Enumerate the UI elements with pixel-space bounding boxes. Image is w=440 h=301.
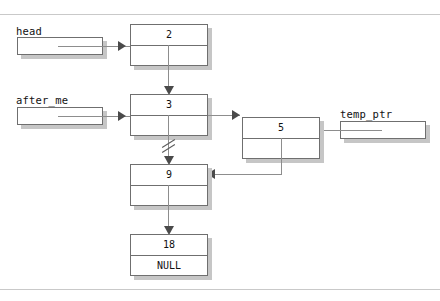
node-18-value: 18 xyxy=(131,235,207,256)
node-2[interactable]: 2 xyxy=(130,24,208,66)
node-3-value: 3 xyxy=(131,95,207,116)
node-3-next xyxy=(131,116,207,135)
figure-top-rule xyxy=(0,14,440,15)
figure-bottom-rule xyxy=(0,289,440,290)
node-2-value: 2 xyxy=(131,25,207,46)
pointer-label-head: head xyxy=(16,25,42,37)
arrowhead-after-me-to-node-3 xyxy=(118,111,126,121)
node-9-value: 9 xyxy=(131,165,207,186)
arrowhead-node-3-to-node-5 xyxy=(232,110,240,120)
pointer-label-temp-ptr: temp_ptr xyxy=(340,108,392,120)
edge-node-5-to-node-9-vertical xyxy=(281,138,282,174)
node-3[interactable]: 3 xyxy=(130,94,208,136)
node-9-next xyxy=(131,186,207,205)
node-2-next xyxy=(131,46,207,65)
node-18-next: NULL xyxy=(131,256,207,275)
pointer-label-after-me: after_me xyxy=(16,94,68,106)
arrowhead-head-to-node-2 xyxy=(118,41,126,51)
severed-link-mark xyxy=(161,140,177,152)
node-9[interactable]: 9 xyxy=(130,164,208,206)
linked-list-diagram: head after_me temp_ptr 2 3 5 xyxy=(0,0,440,301)
node-18[interactable]: 18 NULL xyxy=(130,234,208,276)
edge-node-5-to-node-9-horizontal xyxy=(215,174,282,175)
node-5-value: 5 xyxy=(243,118,319,139)
